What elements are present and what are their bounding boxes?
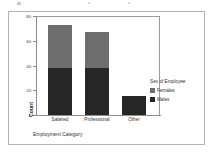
legend: Sex of Employee Females Males bbox=[150, 79, 202, 106]
y-tick-40 bbox=[33, 66, 36, 67]
legend-label-females: Females bbox=[157, 88, 175, 93]
x-axis-title: Employment Category bbox=[33, 131, 82, 137]
y-tick-label-20: 20 bbox=[19, 88, 31, 93]
x-category-label-salaried: Salaried bbox=[45, 117, 75, 123]
y-tick-20 bbox=[33, 90, 36, 91]
bar-salaried bbox=[48, 25, 72, 115]
legend-title: Sex of Employee bbox=[150, 79, 202, 84]
legend-item-males: Males bbox=[150, 97, 202, 102]
legend-swatch-males-icon bbox=[150, 97, 155, 102]
y-tick-label-80: 80 bbox=[19, 14, 31, 19]
y-tick-label-60: 60 bbox=[19, 39, 31, 44]
bar-professional bbox=[85, 32, 109, 115]
bar-other bbox=[122, 96, 146, 115]
scan-artifact bbox=[128, 2, 130, 4]
bar-segment-females-salaried bbox=[48, 25, 72, 68]
scan-artifact bbox=[88, 2, 90, 4]
legend-label-males: Males bbox=[157, 97, 169, 102]
x-category-label-other: Other bbox=[119, 117, 149, 123]
chart-screenshot: 80 60 40 20 0 Count Salaried Professiona… bbox=[0, 0, 216, 153]
y-tick-60 bbox=[33, 41, 36, 42]
x-category-label-professional: Professional bbox=[80, 117, 114, 123]
bar-segment-males-salaried bbox=[48, 68, 72, 115]
bar-segment-males-professional bbox=[85, 68, 109, 115]
y-tick-80 bbox=[33, 16, 36, 17]
scan-artifact bbox=[17, 2, 21, 5]
y-axis-title: Count bbox=[28, 102, 34, 117]
bar-segment-females-professional bbox=[85, 32, 109, 68]
x-axis-line bbox=[36, 115, 161, 116]
y-tick-label-40: 40 bbox=[19, 64, 31, 69]
bar-segment-males-other bbox=[122, 96, 146, 115]
y-axis-line bbox=[36, 16, 37, 116]
legend-item-females: Females bbox=[150, 88, 202, 93]
legend-swatch-females-icon bbox=[150, 88, 155, 93]
